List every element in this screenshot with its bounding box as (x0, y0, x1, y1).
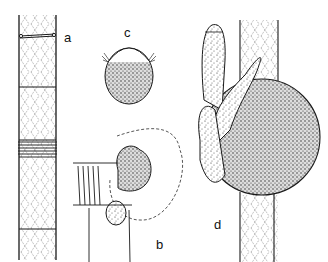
panel-label-d: d (214, 218, 221, 231)
panel-a-filament (18, 15, 57, 260)
panel-c-cell (102, 48, 156, 104)
panel-label-a: a (64, 31, 71, 44)
panel-label-b: b (156, 238, 163, 251)
panel-b-body (73, 129, 183, 262)
illustration-canvas (0, 0, 328, 262)
panel-label-c: c (124, 26, 131, 39)
